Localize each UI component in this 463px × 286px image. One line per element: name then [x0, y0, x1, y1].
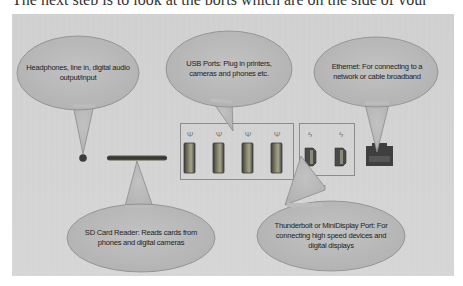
- callout-sd-text: SD Card Reader: Reads cards from phones …: [80, 228, 202, 248]
- callout-headphones: [17, 36, 139, 154]
- callout-ethernet-text: Ethernet: For connecting to a network or…: [325, 62, 429, 82]
- sd-card-slot: [107, 156, 167, 161]
- callout-usb-text: USB Ports: Plug in printers, cameras and…: [175, 59, 283, 79]
- headphone-jack: [79, 154, 87, 162]
- thunderbolt-ports: [305, 148, 346, 166]
- usb-port: [213, 143, 224, 173]
- lightning-bolt-icon: ϟ: [305, 130, 315, 139]
- usb-trident-icon: Ψ: [272, 130, 282, 139]
- callout-headphones-text: Headphones, line in, digital audio outpu…: [22, 63, 134, 83]
- usb-port: [184, 143, 195, 173]
- callout-thunderbolt-text: Thunderbolt or MiniDisplay Port: For con…: [271, 221, 391, 251]
- usb-trident-icon: Ψ: [243, 130, 253, 139]
- usb-trident-icon: Ψ: [214, 130, 224, 139]
- usb-port: [271, 143, 282, 173]
- ports-diagram: [0, 0, 463, 286]
- ethernet-port: [366, 143, 393, 166]
- callout-ethernet: [314, 37, 438, 152]
- usb-trident-icon: Ψ: [185, 130, 195, 139]
- callout-usb: [166, 31, 292, 131]
- callout-sd: [67, 161, 215, 272]
- lightning-bolt-icon: ϟ: [336, 130, 346, 139]
- usb-ports: [184, 143, 282, 173]
- usb-port: [242, 143, 253, 173]
